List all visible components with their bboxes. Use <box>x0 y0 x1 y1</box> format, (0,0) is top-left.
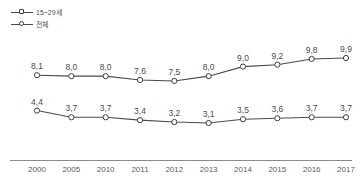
data-point-label: 3,1 <box>203 109 215 119</box>
data-point-label: 7,5 <box>168 67 180 77</box>
x-tick-label: 2015 <box>268 165 286 174</box>
data-point-marker[interactable] <box>34 108 39 113</box>
data-point-marker[interactable] <box>343 55 348 60</box>
data-point-label: 8,0 <box>65 62 77 72</box>
data-point-label: 3,6 <box>271 104 283 114</box>
data-point-label: 3,2 <box>168 108 180 118</box>
data-point-label: 9,8 <box>306 45 318 55</box>
data-point-label: 3,7 <box>100 103 112 113</box>
data-point-marker[interactable] <box>240 117 245 122</box>
x-tick-label: 2016 <box>303 165 321 174</box>
data-point-marker[interactable] <box>206 120 211 125</box>
data-point-label: 9,0 <box>237 53 249 63</box>
data-point-marker[interactable] <box>172 78 177 83</box>
plot-area: 8,18,08,07,67,58,09,09,29,89,94,43,73,73… <box>0 0 362 189</box>
data-point-marker[interactable] <box>275 116 280 121</box>
series-group: 8,18,08,07,67,58,09,09,29,89,94,43,73,73… <box>31 44 352 126</box>
x-tick-label: 2000 <box>28 165 46 174</box>
x-tick-label: 2012 <box>165 165 183 174</box>
x-tick-label: 2013 <box>200 165 218 174</box>
x-tick-label: 2014 <box>234 165 252 174</box>
x-tick-label: 2017 <box>337 165 355 174</box>
series-line-total <box>37 111 346 123</box>
data-point-marker[interactable] <box>69 115 74 120</box>
x-tick-label: 2011 <box>131 165 149 174</box>
data-point-label: 3,7 <box>340 103 352 113</box>
x-tick-label: 2005 <box>62 165 80 174</box>
data-point-marker[interactable] <box>309 115 314 120</box>
x-axis: 2000200520102011201220132014201520162017 <box>10 161 355 175</box>
data-point-marker[interactable] <box>240 64 245 69</box>
data-point-marker[interactable] <box>309 56 314 61</box>
data-point-marker[interactable] <box>206 74 211 79</box>
data-point-label: 8,1 <box>31 61 43 71</box>
data-point-marker[interactable] <box>137 118 142 123</box>
data-point-marker[interactable] <box>343 115 348 120</box>
data-point-label: 3,7 <box>65 103 77 113</box>
x-tick-labels: 2000200520102011201220132014201520162017 <box>28 165 355 174</box>
data-point-label: 9,9 <box>340 44 352 54</box>
data-point-marker[interactable] <box>34 73 39 78</box>
data-point-marker[interactable] <box>172 119 177 124</box>
data-point-label: 4,4 <box>31 97 43 107</box>
data-point-label: 3,7 <box>306 103 318 113</box>
data-point-label: 8,0 <box>100 62 112 72</box>
line-chart: 15~29세 전체 8,18,08,07,67,58,09,09,29,89,9… <box>0 0 362 189</box>
x-tick-label: 2010 <box>97 165 115 174</box>
data-point-label: 7,6 <box>134 66 146 76</box>
data-point-marker[interactable] <box>137 77 142 82</box>
data-point-marker[interactable] <box>69 74 74 79</box>
data-point-label: 3,5 <box>237 105 249 115</box>
data-point-label: 8,0 <box>203 62 215 72</box>
data-point-marker[interactable] <box>103 74 108 79</box>
data-point-marker[interactable] <box>103 115 108 120</box>
data-point-marker[interactable] <box>275 62 280 67</box>
series-line-youth <box>37 58 346 81</box>
data-point-label: 3,4 <box>134 106 146 116</box>
data-point-label: 9,2 <box>271 51 283 61</box>
